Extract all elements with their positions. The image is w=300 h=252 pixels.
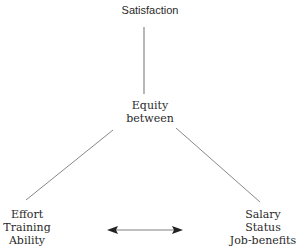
double-arrow-left-right xyxy=(107,226,183,234)
node-satisfaction: Satisfaction xyxy=(90,4,210,17)
node-label: between xyxy=(100,112,200,125)
node-label: Ability xyxy=(0,234,54,247)
node-label: Salary xyxy=(226,208,300,221)
edge-middle-left xyxy=(26,130,113,200)
node-label: Satisfaction xyxy=(90,4,210,17)
edge-middle-right xyxy=(176,128,260,202)
node-outcomes: Salary Status Job-benefits xyxy=(226,208,300,247)
node-label: Status xyxy=(226,221,300,234)
node-label: Equity xyxy=(100,99,200,112)
node-inputs: Effort Training Ability xyxy=(0,208,54,247)
node-label: Effort xyxy=(0,208,54,221)
node-label: Job-benefits xyxy=(226,234,300,247)
node-label: Training xyxy=(0,221,54,234)
node-equity-between: Equity between xyxy=(100,99,200,125)
